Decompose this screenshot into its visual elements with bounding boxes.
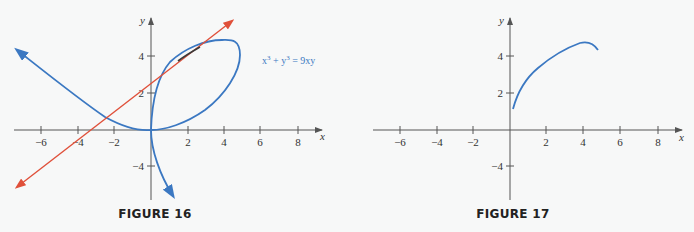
x-axis-label: x (678, 131, 684, 143)
x-tick-labels: −6 −4 −2 2 4 6 8 (394, 136, 661, 148)
x-tick-label: −4 (431, 136, 443, 148)
x-tick-label: 2 (185, 136, 191, 148)
x-tick-label: −6 (35, 136, 47, 148)
y-tick-label: 4 (498, 50, 504, 62)
x-tick-label: 6 (257, 136, 263, 148)
x-tick-label: 8 (655, 136, 661, 148)
x-tick-label: −2 (467, 136, 479, 148)
x-tick-label: −6 (394, 136, 406, 148)
figure-caption: FIGURE 16 (118, 207, 191, 221)
x-tick-label: 8 (295, 136, 301, 148)
y-tick-label: 2 (498, 87, 504, 99)
figure-16: −6 −4 −2 2 4 6 8 x 4 2 −4 y x3 + y3 = 9x… (14, 14, 325, 221)
x-tick-label: −4 (72, 136, 84, 148)
folium-curve (17, 40, 240, 196)
x-tick-label: 6 (617, 136, 623, 148)
y-axis-label: y (139, 14, 145, 26)
equation-label: x3 + y3 = 9xy (262, 54, 315, 66)
x-tick-label: −2 (108, 136, 120, 148)
figure-caption: FIGURE 17 (476, 207, 549, 221)
y-axis-label: y (498, 14, 504, 26)
x-tick-label: 4 (580, 136, 586, 148)
x-axis-label: x (319, 130, 325, 142)
x-tick-label: 4 (221, 136, 227, 148)
x-tick-label: 2 (543, 136, 549, 148)
y-tick-label: 4 (139, 50, 145, 62)
y-tick-label: −4 (491, 160, 503, 172)
upper-loop-curve (513, 42, 598, 109)
y-tick-label: −4 (132, 160, 144, 172)
figures-canvas: −6 −4 −2 2 4 6 8 x 4 2 −4 y x3 + y3 = 9x… (0, 0, 694, 232)
figure-17: −6 −4 −2 2 4 6 8 x 4 2 −4 y FIGURE 17 (373, 14, 684, 221)
tangent-line (17, 21, 232, 187)
